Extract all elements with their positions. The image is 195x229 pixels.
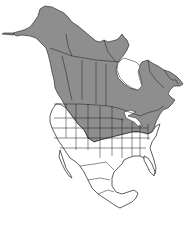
north-america-map — [0, 0, 195, 229]
range-area — [13, 6, 183, 142]
aleutian-islands — [2, 33, 14, 35]
range-map: Range map of North America — [0, 0, 195, 229]
